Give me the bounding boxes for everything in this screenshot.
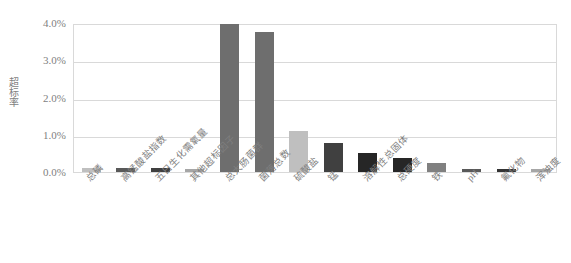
y-axis-tick-label: 0.0% [18,167,66,178]
y-axis-tick-label: 4.0% [18,18,66,29]
y-axis-title: 超标率 [2,62,18,122]
y-axis-tick-label: 2.0% [18,93,66,104]
y-axis-tick-label: 3.0% [18,55,66,66]
y-axis-tick-labels: 0.0%1.0%2.0%3.0%4.0% [18,0,70,263]
bar [324,143,343,172]
y-axis-tick-label: 1.0% [18,130,66,141]
x-axis-tick-labels: 总磷高锰酸盐指数五日生化需氧量其他超标因子总大肠菌群菌落总数硫酸盐锰溶解性总固体… [73,174,557,263]
bar-chart: 超标率 0.0%1.0%2.0%3.0%4.0% 总磷高锰酸盐指数五日生化需氧量… [0,0,571,263]
